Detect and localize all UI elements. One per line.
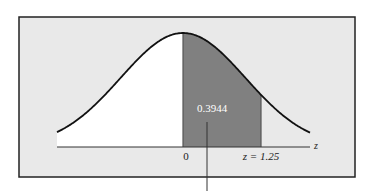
tick-label-z-value: z = 1.25 (242, 150, 280, 162)
area-label: 0.3944 (197, 102, 228, 114)
tick-label-zero: 0 (183, 150, 189, 162)
axis-label-z: z (313, 140, 318, 151)
normal-distribution-chart: 0.3944 0 z = 1.25 z (0, 0, 373, 191)
